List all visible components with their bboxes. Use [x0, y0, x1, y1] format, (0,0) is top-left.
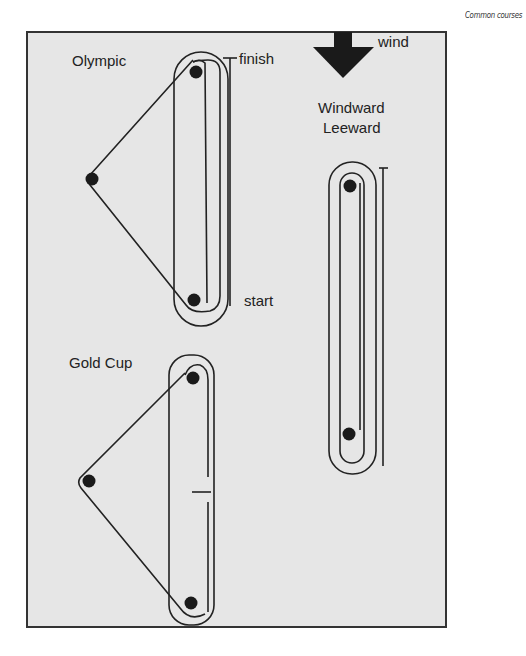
gold-cup-reach-mark — [83, 475, 96, 488]
leeward-mark — [343, 428, 356, 441]
start-label: start — [244, 292, 274, 309]
windward-mark — [344, 180, 357, 193]
olympic-leeward-mark — [188, 294, 201, 307]
olympic-windward-mark — [190, 66, 203, 79]
finish-label: finish — [239, 50, 274, 67]
olympic-title: Olympic — [72, 52, 127, 69]
course-diagram: wind Olympic finish start Gold Cup Windw… — [0, 0, 526, 656]
wind-label: wind — [377, 33, 409, 50]
olympic-reach-mark — [86, 173, 99, 186]
gold-cup-windward-mark — [187, 372, 200, 385]
windward-leeward-title-line2: Leeward — [323, 119, 381, 136]
gold-cup-leeward-mark — [185, 597, 198, 610]
gold-cup-title: Gold Cup — [69, 354, 132, 371]
windward-leeward-title-line1: Windward — [318, 99, 385, 116]
